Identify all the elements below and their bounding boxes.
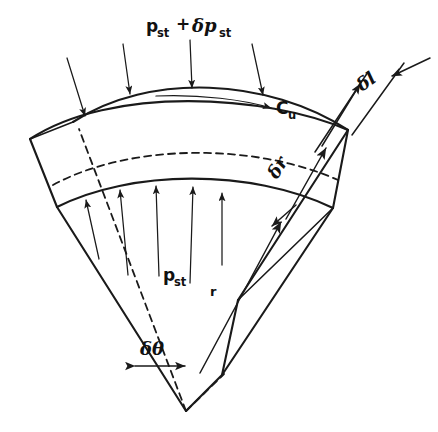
outer-pressure-label: p st + δp st [146,14,232,40]
outer-pressure-label-base-sub: st [157,26,170,40]
delta-theta-label: δθ [139,338,164,359]
tangential-velocity-label-base: C [276,98,288,118]
delta-l-arrow-outer [392,58,430,76]
outer-pressure-label-delta-sub: st [219,26,232,40]
radius-label: r [210,284,217,299]
outer-pressure-arrow-2 [123,44,130,94]
element-body-faces [30,88,348,411]
outer-pressure-arrow-1 [67,58,85,116]
outer-pressure-label-plus: + [176,14,190,34]
inner-pressure-label-sub: st [174,275,187,289]
diagram-root: p st + δp st C u δl δr p st r δθ [0,0,438,432]
radius-label-text: r [210,284,217,299]
outer-pressure-arrow-3 [190,40,192,88]
delta-theta-label-text: δθ [139,338,164,359]
outer-pressure-label-delta: δp [191,15,217,36]
tangential-velocity-label-sub: u [288,108,296,122]
outer-pressure-arrow-4 [252,44,263,95]
lower-wedge-face [57,179,333,411]
fluid-element-diagram: p st + δp st C u δl δr p st r δθ [0,0,438,432]
